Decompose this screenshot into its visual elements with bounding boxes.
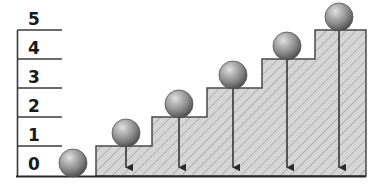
ball-on-step-2 bbox=[165, 90, 193, 118]
y-tick-label-4: 4 bbox=[28, 38, 40, 58]
ball-on-step-1 bbox=[112, 119, 140, 147]
y-tick-label-5: 5 bbox=[28, 9, 40, 29]
staircase-path bbox=[96, 30, 366, 176]
staircase-shape bbox=[96, 30, 366, 176]
figure-canvas: 5 4 3 2 1 0 bbox=[0, 0, 383, 184]
ball-on-step-4 bbox=[273, 32, 301, 60]
y-tick-label-2: 2 bbox=[28, 96, 40, 116]
staircase-potential-energy-diagram: 5 4 3 2 1 0 bbox=[0, 0, 383, 184]
y-tick-label-0: 0 bbox=[28, 154, 40, 174]
y-tick-label-3: 3 bbox=[28, 67, 40, 87]
y-tick-label-1: 1 bbox=[28, 125, 40, 145]
ball-on-step-3 bbox=[219, 61, 247, 89]
ball-on-step-5 bbox=[325, 3, 353, 31]
y-axis: 5 4 3 2 1 0 bbox=[18, 9, 63, 176]
ball-on-ground bbox=[59, 149, 87, 177]
